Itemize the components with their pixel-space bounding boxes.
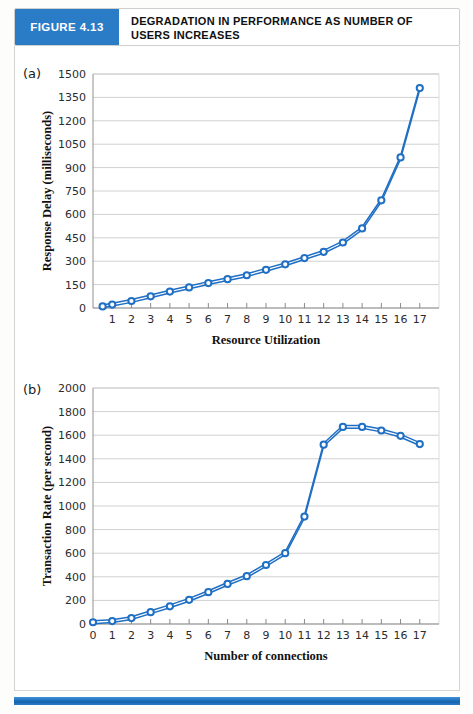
data-point-marker	[186, 284, 192, 290]
data-point-marker	[148, 609, 154, 615]
data-point-marker	[224, 581, 230, 587]
data-point-marker	[378, 197, 384, 203]
data-point-marker	[148, 293, 154, 299]
chart-b-svg: 0200400600800100012001400160018002000012…	[15, 376, 461, 681]
y-tick-label: 600	[65, 547, 86, 560]
y-tick-label: 150	[65, 279, 86, 292]
data-point-marker	[100, 303, 106, 309]
y-tick-label: 1600	[58, 429, 86, 442]
figure-body: (a) 015030045060075090010501200135015001…	[14, 46, 460, 691]
x-tick-label: 15	[374, 629, 388, 642]
figure-header: FIGURE 4.13 DEGRADATION IN PERFORMANCE A…	[14, 8, 460, 46]
y-tick-label: 1500	[58, 68, 86, 81]
data-series-line	[93, 426, 420, 624]
data-point-marker	[282, 261, 288, 267]
data-point-marker	[359, 424, 365, 430]
chart-b-canvas: 0200400600800100012001400160018002000012…	[15, 376, 461, 685]
y-tick-label: 1350	[58, 91, 86, 104]
x-tick-label: 14	[355, 313, 369, 326]
chart-panel-a: (a) 015030045060075090010501200135015001…	[15, 60, 461, 370]
data-point-marker	[109, 618, 115, 624]
data-point-marker	[282, 550, 288, 556]
x-axis-title: Resource Utilization	[212, 333, 320, 347]
x-tick-label: 8	[243, 629, 250, 642]
y-tick-label: 1050	[58, 138, 86, 151]
data-point-marker	[397, 154, 403, 160]
y-tick-label: 600	[65, 208, 86, 221]
y-tick-label: 1200	[58, 115, 86, 128]
data-point-marker	[90, 619, 96, 625]
data-point-marker	[167, 289, 173, 295]
x-tick-label: 3	[147, 629, 154, 642]
data-point-marker	[321, 442, 327, 448]
x-tick-label: 10	[278, 629, 292, 642]
x-tick-label: 1	[109, 629, 116, 642]
x-tick-label: 9	[263, 629, 270, 642]
x-tick-label: 4	[166, 313, 173, 326]
x-tick-label: 1	[109, 313, 116, 326]
x-tick-label: 10	[278, 313, 292, 326]
bottom-accent-bar	[14, 697, 460, 705]
figure-number: FIGURE 4.13	[15, 9, 119, 45]
y-axis-title: Response Delay (milliseconds)	[40, 111, 54, 271]
y-tick-label: 800	[65, 524, 86, 537]
x-tick-label: 14	[355, 629, 369, 642]
chart-a-canvas: 0150300450600750900105012001350150012345…	[15, 60, 461, 374]
y-tick-label: 0	[79, 618, 86, 631]
figure-page: FIGURE 4.13 DEGRADATION IN PERFORMANCE A…	[0, 0, 473, 714]
y-tick-label: 0	[79, 302, 86, 315]
x-tick-label: 17	[413, 629, 427, 642]
x-tick-label: 15	[374, 313, 388, 326]
x-tick-label: 13	[336, 313, 350, 326]
data-point-marker	[205, 280, 211, 286]
x-tick-label: 0	[90, 629, 97, 642]
y-tick-label: 750	[65, 185, 86, 198]
data-point-marker	[263, 562, 269, 568]
data-point-marker	[359, 225, 365, 231]
x-tick-label: 5	[186, 313, 193, 326]
data-point-marker	[205, 589, 211, 595]
chart-panel-b: (b) 020040060080010001200140016001800200…	[15, 376, 461, 681]
y-tick-label: 1400	[58, 453, 86, 466]
x-tick-label: 4	[166, 629, 173, 642]
data-point-marker	[244, 573, 250, 579]
data-point-marker	[321, 249, 327, 255]
x-tick-label: 11	[297, 629, 311, 642]
x-axis-title: Number of connections	[204, 649, 328, 663]
data-point-marker	[128, 615, 134, 621]
data-point-marker	[340, 239, 346, 245]
x-tick-label: 13	[336, 629, 350, 642]
x-tick-label: 2	[128, 313, 135, 326]
x-tick-label: 3	[147, 313, 154, 326]
y-tick-label: 900	[65, 162, 86, 175]
data-point-marker	[167, 603, 173, 609]
data-point-marker	[186, 597, 192, 603]
y-tick-label: 400	[65, 571, 86, 584]
x-tick-label: 2	[128, 629, 135, 642]
x-tick-label: 6	[205, 313, 212, 326]
y-tick-label: 1800	[58, 406, 86, 419]
figure-title: DEGRADATION IN PERFORMANCE AS NUMBER OF …	[119, 9, 459, 45]
data-point-marker	[417, 441, 423, 447]
data-point-marker	[128, 298, 134, 304]
x-tick-label: 9	[263, 313, 270, 326]
data-point-marker	[224, 276, 230, 282]
x-tick-label: 5	[186, 629, 193, 642]
y-tick-label: 200	[65, 594, 86, 607]
x-tick-label: 6	[205, 629, 212, 642]
y-axis-title: Transaction Rate (per second)	[40, 426, 54, 586]
y-tick-label: 1200	[58, 476, 86, 489]
x-tick-label: 16	[394, 629, 408, 642]
x-tick-label: 7	[224, 313, 231, 326]
data-series-line	[103, 87, 420, 308]
y-tick-label: 2000	[58, 382, 86, 395]
y-tick-label: 300	[65, 255, 86, 268]
data-point-marker	[397, 433, 403, 439]
chart-a-svg: 0150300450600750900105012001350150012345…	[15, 60, 461, 370]
data-point-marker	[378, 427, 384, 433]
data-point-marker	[244, 272, 250, 278]
x-tick-label: 17	[413, 313, 427, 326]
y-tick-label: 450	[65, 232, 86, 245]
x-tick-label: 12	[317, 313, 331, 326]
x-tick-label: 11	[297, 313, 311, 326]
